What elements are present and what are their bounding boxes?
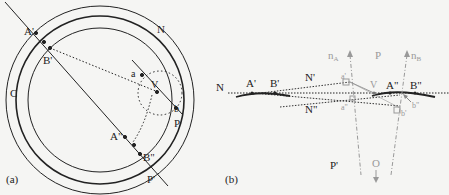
label-n-prime: N' bbox=[305, 72, 315, 83]
label-b: b bbox=[174, 104, 179, 114]
caption-a: (a) bbox=[6, 174, 18, 185]
label-b-v: V bbox=[370, 80, 377, 90]
label-nb: nB bbox=[411, 50, 421, 63]
label-a: a bbox=[131, 69, 135, 79]
label-b-p-prime: P' bbox=[330, 160, 338, 171]
label-na: nA bbox=[328, 50, 339, 63]
label-na-sub: A bbox=[334, 55, 339, 63]
label-n: N bbox=[157, 24, 165, 35]
figure: A' B' N C a V b P A" B" P' (a) N A' B' N… bbox=[0, 0, 449, 195]
label-b-a-prime: A' bbox=[246, 78, 256, 89]
label-nb-sub: B bbox=[417, 55, 422, 63]
label-p: P bbox=[174, 118, 180, 129]
label-a-dprime-small: a" bbox=[341, 104, 348, 112]
label-b-prime: B' bbox=[43, 55, 52, 66]
caption-b: (b) bbox=[225, 174, 238, 185]
label-c: C bbox=[10, 88, 17, 99]
label-b-b-dprime: B" bbox=[410, 80, 422, 91]
label-a-prime-small: a' bbox=[341, 73, 346, 81]
label-b-dprime-small: b" bbox=[412, 102, 419, 110]
label-b-b-prime: B' bbox=[270, 78, 279, 89]
label-o: O bbox=[372, 158, 380, 169]
label-b-prime-small: b' bbox=[401, 110, 406, 118]
label-b-n: N bbox=[216, 82, 224, 93]
label-b-dprime: B" bbox=[143, 152, 155, 163]
label-a-prime: A' bbox=[24, 26, 34, 37]
label-p-prime: P' bbox=[147, 174, 155, 185]
label-b-a-dprime: A" bbox=[386, 80, 398, 91]
panel-b-drawing bbox=[228, 50, 449, 183]
label-b-p: P bbox=[375, 50, 381, 61]
label-v: V bbox=[151, 80, 158, 90]
diagram-canvas bbox=[0, 0, 449, 195]
label-a-dprime: A" bbox=[110, 131, 122, 142]
label-n-dprime: N" bbox=[305, 104, 317, 115]
